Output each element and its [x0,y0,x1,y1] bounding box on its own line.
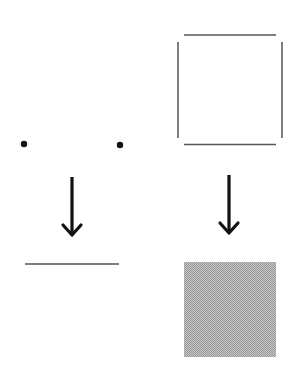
right-panel [178,35,282,357]
output-filled-square [184,262,276,357]
arrow-down-icon [220,175,238,233]
left-panel [21,141,123,264]
diagram-canvas: Two transformations: two points become a… [0,0,299,377]
arrow-down-icon [63,177,81,235]
input-open-square [178,35,282,145]
diagram-svg [0,0,299,377]
input-points [21,141,123,148]
point-b [117,142,123,148]
point-a [21,141,27,147]
